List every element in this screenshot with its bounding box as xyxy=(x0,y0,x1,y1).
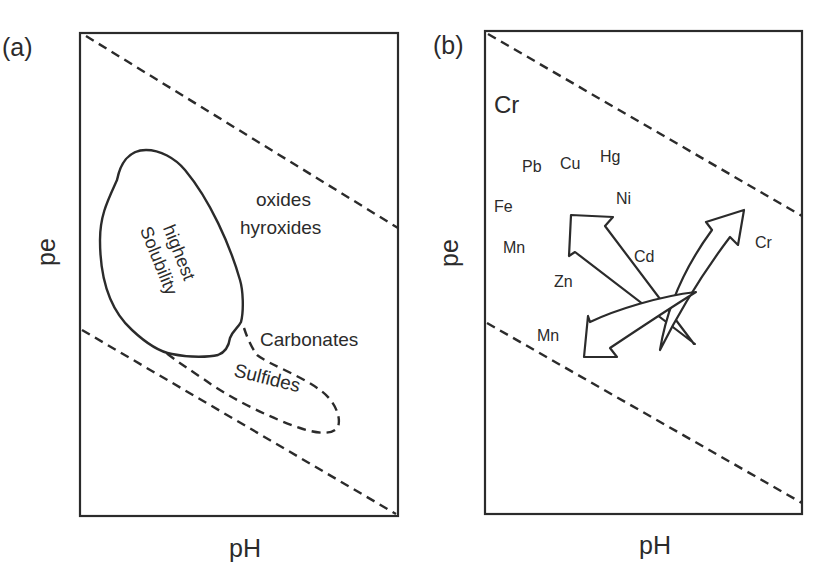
element-fe: Fe xyxy=(494,198,513,215)
lower-water-stability-line xyxy=(487,323,802,503)
element-cd: Cd xyxy=(634,248,654,265)
element-zn: Zn xyxy=(554,273,573,290)
element-mn-upper: Mn xyxy=(503,239,525,256)
panel-b-label: (b) xyxy=(433,31,464,59)
element-hg: Hg xyxy=(600,148,620,165)
panel-a-y-axis-label: pe xyxy=(32,238,60,266)
element-cr-right: Cr xyxy=(755,234,773,251)
panel-a-x-axis-label: pH xyxy=(229,534,261,562)
panel-a: (a) highest Solubility oxides hyroxides … xyxy=(2,33,398,562)
carbonates-label: Carbonates xyxy=(260,329,358,350)
highest-solubility-label: highest Solubility xyxy=(136,215,202,298)
element-mn-lower: Mn xyxy=(537,327,559,344)
oxides-label: oxides xyxy=(256,189,311,210)
hydroxides-label: hyroxides xyxy=(240,217,321,238)
panel-b-x-axis-label: pH xyxy=(639,531,671,559)
element-ni: Ni xyxy=(616,190,631,207)
upper-water-stability-line xyxy=(86,36,398,228)
figure-canvas: (a) highest Solubility oxides hyroxides … xyxy=(0,0,831,586)
panel-a-label: (a) xyxy=(2,33,33,61)
lower-water-stability-line xyxy=(82,330,396,514)
upper-water-stability-line xyxy=(488,34,802,216)
element-cr-top: Cr xyxy=(494,91,519,118)
element-pb: Pb xyxy=(522,158,542,175)
sulfides-label: Sulfides xyxy=(232,360,303,397)
panel-b-frame xyxy=(485,31,802,514)
arrow-oxidizing-alkaline xyxy=(660,210,744,350)
element-cu: Cu xyxy=(560,155,580,172)
panel-b: (b) Cr Pb Cu Hg Fe Ni Mn Cd Zn Cr Mn pe … xyxy=(433,31,802,559)
panel-b-y-axis-label: pe xyxy=(435,239,463,267)
